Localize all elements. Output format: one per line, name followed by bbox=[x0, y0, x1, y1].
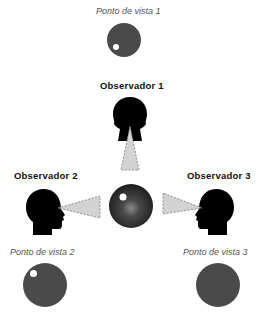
highlight-dot bbox=[30, 270, 37, 277]
observer-2-head-icon bbox=[26, 189, 65, 235]
observer-2-label: Observador 2 bbox=[14, 170, 78, 181]
sphere-highlight bbox=[120, 194, 127, 201]
viewpoint-2-label: Ponto de vista 2 bbox=[10, 247, 75, 257]
observer-3-head-icon bbox=[195, 189, 234, 235]
viewpoint-3-disc bbox=[196, 263, 240, 307]
central-sphere bbox=[109, 184, 153, 228]
viewpoint-2-disc bbox=[23, 263, 67, 307]
view-cone-3 bbox=[163, 193, 202, 214]
viewpoint-3-label: Ponto de vista 3 bbox=[183, 247, 248, 257]
observer-3-label: Observador 3 bbox=[187, 170, 251, 181]
